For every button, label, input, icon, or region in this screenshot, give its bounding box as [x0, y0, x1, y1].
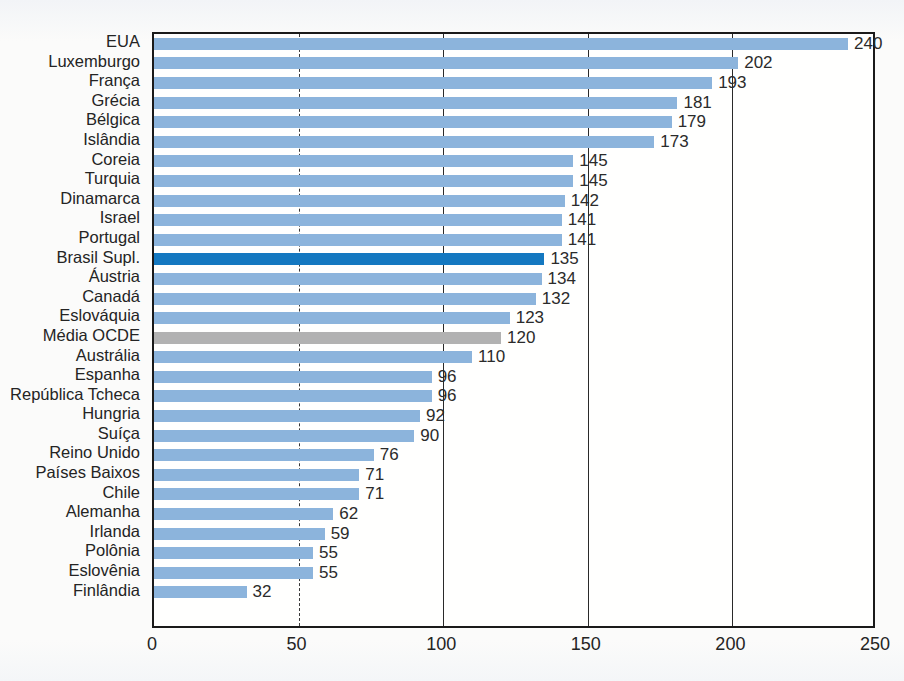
- x-tick-0: 0: [147, 634, 157, 655]
- bar-value-label: 96: [432, 367, 457, 387]
- category-label: Alemanha: [0, 502, 146, 522]
- bar-chart-plot-area: 2402021931811791731451451421411411351341…: [152, 32, 875, 628]
- bar-row: 202: [154, 54, 873, 74]
- bar-dinamarca: [154, 195, 565, 207]
- category-label: EUA: [0, 32, 146, 52]
- bar-row: 110: [154, 348, 873, 368]
- bar-portugal: [154, 234, 562, 246]
- bar-ustria: [154, 273, 542, 285]
- category-axis-labels: EUALuxemburgoFrançaGréciaBélgicaIslândia…: [0, 32, 146, 600]
- bar-canad: [154, 293, 536, 305]
- category-label: Finlândia: [0, 581, 146, 601]
- bar-row: 92: [154, 406, 873, 426]
- value-axis-ticks: 050100150200250: [152, 634, 875, 664]
- category-label: Coreia: [0, 150, 146, 170]
- category-label: Polônia: [0, 541, 146, 561]
- x-tick-200: 200: [715, 634, 745, 655]
- bar-alemanha: [154, 508, 333, 520]
- x-tick-100: 100: [426, 634, 456, 655]
- bar-row: 59: [154, 524, 873, 544]
- bar-row: 62: [154, 504, 873, 524]
- bar-value-label: 135: [544, 249, 578, 269]
- bar-row: 96: [154, 387, 873, 407]
- bar-row: 55: [154, 563, 873, 583]
- bar-eua: [154, 38, 848, 50]
- category-label: Canadá: [0, 287, 146, 307]
- bar-luxemburgo: [154, 57, 738, 69]
- bar-irlanda: [154, 528, 325, 540]
- category-label: Luxemburgo: [0, 52, 146, 72]
- category-label: Brasil Supl.: [0, 248, 146, 268]
- bar-value-label: 120: [501, 328, 535, 348]
- bar-chile: [154, 488, 359, 500]
- bar-value-label: 202: [738, 53, 772, 73]
- bar-finl-ndia: [154, 586, 247, 598]
- category-label: Bélgica: [0, 110, 146, 130]
- bar-value-label: 32: [247, 582, 272, 602]
- bar-value-label: 55: [313, 543, 338, 563]
- bar-row: 96: [154, 367, 873, 387]
- x-tick-150: 150: [571, 634, 601, 655]
- bar-row: 76: [154, 445, 873, 465]
- bar-value-label: 92: [420, 406, 445, 426]
- bar-rep-blica-tcheca: [154, 390, 432, 402]
- x-tick-250: 250: [860, 634, 890, 655]
- bar-m-dia-ocde: [154, 332, 501, 344]
- bar-row: 145: [154, 171, 873, 191]
- bar-value-label: 71: [359, 484, 384, 504]
- category-label: Islândia: [0, 130, 146, 150]
- category-label: França: [0, 71, 146, 91]
- category-label: Irlanda: [0, 522, 146, 542]
- bar-value-label: 141: [562, 210, 596, 230]
- category-label: Média OCDE: [0, 326, 146, 346]
- bar-value-label: 62: [333, 504, 358, 524]
- bar-isl-ndia: [154, 136, 654, 148]
- bar-row: 71: [154, 465, 873, 485]
- bar-su-a: [154, 430, 414, 442]
- category-label: Dinamarca: [0, 189, 146, 209]
- bar-coreia: [154, 155, 573, 167]
- category-label: Austrália: [0, 346, 146, 366]
- bar-value-label: 173: [654, 132, 688, 152]
- category-label: República Tcheca: [0, 385, 146, 405]
- bar-value-label: 55: [313, 563, 338, 583]
- bar-value-label: 76: [374, 445, 399, 465]
- x-tick-50: 50: [287, 634, 307, 655]
- bar-row: 141: [154, 210, 873, 230]
- bar-row: 71: [154, 485, 873, 505]
- bar-value-label: 179: [672, 112, 706, 132]
- bar-value-label: 123: [510, 308, 544, 328]
- bar-value-label: 59: [325, 524, 350, 544]
- bar-value-label: 132: [536, 289, 570, 309]
- bar-hungria: [154, 410, 420, 422]
- bar-reino-unido: [154, 449, 374, 461]
- bar-row: 141: [154, 230, 873, 250]
- bar-value-label: 145: [573, 151, 607, 171]
- category-label: Grécia: [0, 91, 146, 111]
- category-label: Portugal: [0, 228, 146, 248]
- bar-eslov-quia: [154, 312, 510, 324]
- bar-row: 32: [154, 583, 873, 603]
- bar-value-label: 134: [542, 269, 576, 289]
- bar-pa-ses-baixos: [154, 469, 359, 481]
- bar-value-label: 96: [432, 386, 457, 406]
- bar-israel: [154, 214, 562, 226]
- bar-row: 240: [154, 34, 873, 54]
- bar-row: 179: [154, 112, 873, 132]
- bar-espanha: [154, 371, 432, 383]
- bar-row: 120: [154, 328, 873, 348]
- category-label: Reino Unido: [0, 443, 146, 463]
- bar-value-label: 71: [359, 465, 384, 485]
- bar-eslov-nia: [154, 567, 313, 579]
- bar-value-label: 181: [677, 93, 711, 113]
- category-label: Áustria: [0, 267, 146, 287]
- bar-row: 193: [154, 73, 873, 93]
- bar-value-label: 145: [573, 171, 607, 191]
- bar-gr-cia: [154, 97, 677, 109]
- bar-turquia: [154, 175, 573, 187]
- bar-row: 181: [154, 93, 873, 113]
- bar-row: 90: [154, 426, 873, 446]
- bar-row: 55: [154, 543, 873, 563]
- bar-value-label: 90: [414, 426, 439, 446]
- category-label: Eslovênia: [0, 561, 146, 581]
